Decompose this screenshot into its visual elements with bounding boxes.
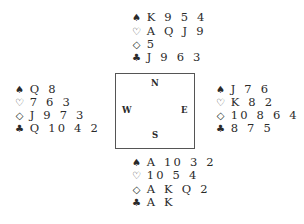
compass-south: S [152,130,158,140]
club-icon: ♣ [131,51,142,64]
spade-icon: ♠ [131,11,142,24]
north-spades: K 9 5 4 [147,11,207,24]
east-clubs: 8 7 5 [231,122,273,135]
club-icon: ♣ [131,196,142,209]
north-spades-row: ♠ K 9 5 4 [131,11,207,24]
club-icon: ♣ [215,122,226,135]
diamond-icon: ◇ [215,109,226,122]
compass-east: E [181,105,187,115]
north-clubs: J 9 6 3 [147,51,203,64]
diamond-icon: ◇ [131,183,142,196]
spade-icon: ♠ [14,83,25,96]
north-clubs-row: ♣ J 9 6 3 [131,51,203,64]
compass-west: W [122,105,132,115]
spade-icon: ♠ [215,83,226,96]
club-icon: ♣ [14,122,25,135]
diamond-icon: ◇ [131,38,142,51]
heart-icon: ♡ [131,25,142,38]
compass-north: N [151,78,159,88]
heart-icon: ♡ [131,169,142,182]
south-hearts-row: ♡ 10 5 4 [131,169,198,182]
east-clubs-row: ♣ 8 7 5 [215,122,273,135]
west-clubs: Q 10 4 2 [30,122,100,135]
west-clubs-row: ♣ Q 10 4 2 [14,122,100,135]
compass-table: N W E S [115,73,195,149]
heart-icon: ♡ [14,96,25,109]
diamond-icon: ◇ [14,109,25,122]
south-clubs: A K [147,196,175,209]
south-clubs-row: ♣ A K [131,196,175,209]
south-hearts: 10 5 4 [147,169,199,182]
heart-icon: ♡ [215,96,226,109]
spade-icon: ♠ [131,156,142,169]
